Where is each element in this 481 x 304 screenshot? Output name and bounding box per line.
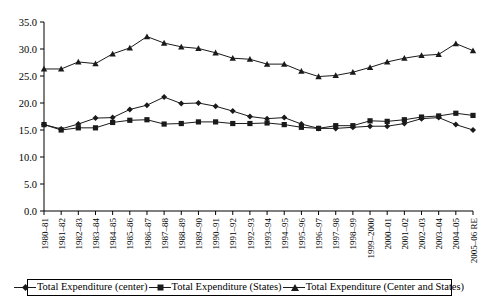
data-point-diamond [453,122,459,128]
y-tick-label: 10.0 [19,152,37,163]
legend-label-0: Total Expenditure (center) [36,282,149,293]
data-point-square [230,121,235,126]
data-point-square [76,125,81,130]
data-point-diamond [384,123,390,129]
data-point-square [419,114,424,119]
x-tick-label: 1993–94 [263,218,273,250]
chart-legend: Total Expenditure (center) Total Expendi… [27,279,452,296]
data-point-square [436,113,441,118]
data-point-diamond [195,100,201,106]
legend-item-1: Total Expenditure (States) [149,282,283,293]
x-tick-label: 1983–84 [91,218,101,250]
data-point-square [179,121,184,126]
x-tick-label: 2003–04 [434,218,444,250]
y-tick-label: 35.0 [19,17,37,28]
series-line-0 [44,97,473,130]
line-chart-plot: 0.05.010.015.020.025.030.035.01980–81198… [0,0,481,278]
x-tick-label: 1989–90 [194,218,204,250]
data-point-square [264,120,269,125]
square-marker-icon [149,283,171,292]
data-point-diamond [178,101,184,107]
x-tick-label: 2005–06 RE [469,218,479,264]
diamond-marker-icon [14,283,36,292]
y-tick-label: 30.0 [19,44,37,55]
data-point-square [196,119,201,124]
chart-container: 0.05.010.015.020.025.030.035.01980–81198… [0,0,481,304]
data-point-triangle [453,40,459,46]
data-point-square [367,118,372,123]
x-tick-label: 1984–85 [108,218,118,250]
data-point-square [162,121,167,126]
x-tick-label: 1996–97 [314,218,324,250]
data-point-diamond [127,106,133,112]
x-tick-label: 1987–88 [160,218,170,250]
legend-item-0: Total Expenditure (center) [14,282,149,293]
data-point-diamond [281,115,287,121]
x-tick-label: 1995–96 [297,218,307,250]
data-point-square [127,118,132,123]
data-point-triangle [161,40,167,46]
x-tick-label: 1999–2000 [366,218,376,259]
x-tick-label: 1980–81 [40,218,50,250]
x-tick-label: 1992–93 [246,218,256,250]
data-point-square [144,117,149,122]
series-line-2 [44,37,473,77]
data-point-square [110,120,115,125]
y-tick-label: 20.0 [19,98,37,109]
x-tick-label: 1982–83 [74,218,84,250]
x-tick-label: 2004–05 [451,218,461,250]
x-tick-label: 1997–98 [331,218,341,250]
data-point-square [41,122,46,127]
legend-item-2: Total Expenditure (Center and States) [283,282,465,293]
data-point-square [316,126,321,131]
y-tick-label: 15.0 [19,125,37,136]
series-line-1 [44,113,473,130]
y-tick-label: 25.0 [19,71,37,82]
x-tick-label: 1981–82 [57,218,67,250]
data-point-diamond [144,102,150,108]
data-point-square [299,125,304,130]
x-tick-label: 1985–86 [125,218,135,250]
data-point-square [93,125,98,130]
data-point-diamond [230,108,236,114]
data-point-triangle [144,33,150,39]
data-point-triangle [298,68,304,74]
data-point-square [350,123,355,128]
x-tick-label: 1998–99 [348,218,358,250]
x-tick-label: 1991–92 [228,218,238,250]
data-point-diamond [470,127,476,133]
data-point-square [282,122,287,127]
legend-label-1: Total Expenditure (States) [171,282,283,293]
data-point-diamond [367,123,373,129]
legend-label-2: Total Expenditure (Center and States) [305,282,465,293]
x-tick-label: 2000–01 [383,218,393,250]
x-tick-label: 2001–02 [400,218,410,250]
x-tick-label: 1986–87 [143,218,153,250]
data-point-triangle [75,59,81,65]
data-point-diamond [110,115,116,121]
x-tick-label: 2002–03 [417,218,427,250]
data-point-diamond [92,115,98,121]
data-point-square [247,121,252,126]
data-point-diamond [161,94,167,100]
data-point-square [333,123,338,128]
data-point-square [470,113,475,118]
data-point-diamond [247,114,253,120]
data-point-square [402,117,407,122]
x-tick-label: 1994–95 [280,218,290,250]
y-tick-label: 0.0 [24,206,37,217]
series-0 [41,94,476,133]
data-point-square [213,119,218,124]
y-tick-label: 5.0 [24,179,37,190]
data-point-square [453,111,458,116]
data-point-triangle [470,47,476,53]
data-point-diamond [213,103,219,109]
x-tick-label: 1990–91 [211,218,221,250]
series-2 [41,33,476,79]
data-point-square [59,127,64,132]
data-point-square [385,119,390,124]
triangle-marker-icon [283,283,305,292]
x-tick-label: 1988–89 [177,218,187,250]
data-point-triangle [127,45,133,51]
